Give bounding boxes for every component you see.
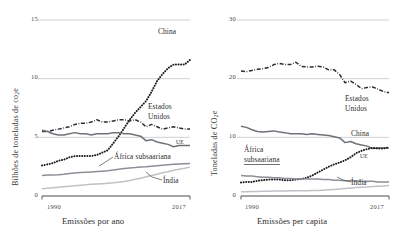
- right-chart-plot: [199, 0, 397, 236]
- chart-panel-left: Bilhões de toneladas de co2e 15 10 5 0 1…: [0, 0, 198, 236]
- right-y-axis-title-text: Toneladas de CO: [210, 117, 219, 176]
- left-ytick-15: 15: [22, 15, 38, 22]
- left-xtick-1990: 1990: [47, 203, 61, 210]
- right-ytick-10: 10: [220, 132, 236, 139]
- right-xtick-2017: 2017: [370, 203, 384, 210]
- right-y-axis-title-sub: 2: [213, 114, 219, 117]
- right-label-eu: UE: [360, 152, 368, 162]
- right-x-axis-title: Emissões per capita: [257, 216, 327, 226]
- left-xtick-2017: 2017: [172, 203, 186, 210]
- left-ytick-10: 10: [22, 73, 38, 80]
- right-y-axis-title: Toneladas de CO2e: [210, 111, 219, 176]
- figure-root: Bilhões de toneladas de co2e 15 10 5 0 1…: [0, 0, 397, 236]
- right-label-usa: Estados Unidos: [345, 94, 369, 113]
- left-x-axis-title: Emissões por ano: [62, 216, 124, 226]
- right-y-axis-title-tail: e: [210, 111, 219, 115]
- right-label-china: China: [351, 129, 369, 139]
- left-ytick-0: 0: [22, 191, 38, 198]
- right-label-usa-line2: Unidos: [345, 104, 367, 113]
- right-label-africa: África subsaariana: [244, 145, 280, 164]
- right-xtick-1990: 1990: [245, 203, 259, 210]
- left-label-india: Índia: [163, 176, 179, 186]
- right-label-africa-line1: África: [244, 145, 263, 154]
- left-label-usa: Estados Unidos: [148, 102, 172, 121]
- left-label-usa-line2: Unidos: [148, 112, 170, 121]
- left-y-axis-title-text: Bilhões de toneladas de co: [11, 95, 20, 186]
- left-y-axis-title-tail: e: [11, 88, 20, 92]
- left-label-usa-line1: Estados: [148, 102, 172, 111]
- left-label-africa: África subsaariana: [114, 152, 171, 162]
- left-y-axis-title: Bilhões de toneladas de co2e: [11, 88, 20, 186]
- right-ytick-20: 20: [220, 73, 236, 80]
- right-ytick-0: 0: [220, 191, 236, 198]
- left-y-axis-title-sub: 2: [14, 92, 20, 95]
- chart-panel-right: 30 20 10 0 1990 2017 Emissões per capita…: [199, 0, 397, 236]
- right-label-usa-line1: Estados: [345, 94, 369, 103]
- left-label-china: China: [158, 27, 176, 37]
- left-label-eu: UE: [176, 138, 184, 148]
- right-label-africa-line2: subsaariana: [244, 155, 280, 165]
- left-ytick-5: 5: [22, 132, 38, 139]
- right-ytick-30: 30: [220, 15, 236, 22]
- right-label-india: Índia: [351, 178, 367, 188]
